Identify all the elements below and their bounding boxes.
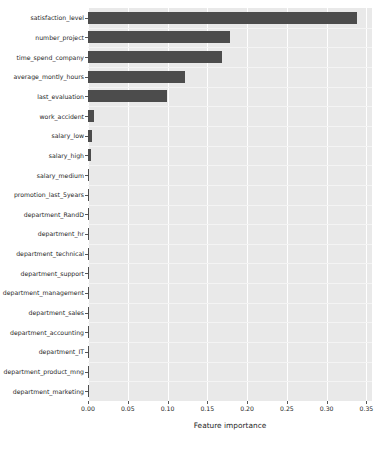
y-tick-label-promotion_last_5years: promotion_last_5years — [0, 191, 84, 198]
x-tick-label-0.20: 0.20 — [240, 404, 254, 413]
x-tick-label-0.30: 0.30 — [320, 404, 334, 413]
bar-department_product_mng — [88, 366, 89, 378]
bar-average_montly_hours — [88, 71, 185, 83]
bar-department_hr — [88, 228, 89, 240]
y-tick-label-salary_medium: salary_medium — [0, 172, 84, 179]
bar-time_spend_company — [88, 51, 222, 63]
bar-series — [88, 8, 372, 401]
y-tick-label-department_accounting: department_accounting — [0, 329, 84, 336]
x-axis-label: Feature importance — [88, 421, 372, 431]
y-tick-label-department_technical: department_technical — [0, 250, 84, 257]
x-tick-mark — [287, 401, 288, 404]
y-tick-mark — [85, 313, 88, 314]
y-tick-mark — [85, 293, 88, 294]
y-tick-label-department_management: department_management — [0, 289, 84, 296]
bar-department_accounting — [88, 326, 89, 338]
x-tick-label-0.35: 0.35 — [360, 404, 374, 413]
y-tick-mark — [85, 116, 88, 117]
y-tick-label-number_project: number_project — [0, 34, 84, 41]
x-tick-label-0.05: 0.05 — [121, 404, 135, 413]
y-tick-mark — [85, 195, 88, 196]
bar-department_IT — [88, 346, 89, 358]
bar-promotion_last_5years — [88, 189, 89, 201]
y-tick-mark — [85, 175, 88, 176]
bar-department_RandD — [88, 208, 89, 220]
bar-number_project — [88, 31, 230, 43]
y-axis-tick-labels: satisfaction_levelnumber_projecttime_spe… — [0, 8, 84, 401]
y-tick-label-department_hr: department_hr — [0, 230, 84, 237]
y-tick-mark — [85, 234, 88, 235]
bar-last_evaluation — [88, 90, 167, 102]
bar-satisfaction_level — [88, 12, 357, 24]
y-tick-label-department_RandD: department_RandD — [0, 211, 84, 218]
x-tick-mark — [366, 401, 367, 404]
y-tick-label-satisfaction_level: satisfaction_level — [0, 14, 84, 21]
x-axis-tick-labels: 0.000.050.100.150.200.250.300.35 — [88, 404, 372, 416]
bar-salary_low — [88, 130, 92, 142]
x-tick-label-0.15: 0.15 — [200, 404, 214, 413]
y-tick-label-work_accident: work_accident — [0, 113, 84, 120]
bar-department_marketing — [88, 385, 89, 397]
y-tick-label-time_spend_company: time_spend_company — [0, 54, 84, 61]
y-tick-mark — [85, 77, 88, 78]
x-tick-label-0.25: 0.25 — [280, 404, 294, 413]
bar-department_management — [88, 287, 89, 299]
y-tick-label-department_marketing: department_marketing — [0, 388, 84, 395]
plot-area — [88, 8, 372, 401]
y-tick-mark — [85, 214, 88, 215]
feature-importance-chart: satisfaction_levelnumber_projecttime_spe… — [0, 0, 381, 458]
x-tick-mark — [88, 401, 89, 404]
y-tick-label-salary_high: salary_high — [0, 152, 84, 159]
y-tick-mark — [85, 136, 88, 137]
x-tick-mark — [168, 401, 169, 404]
y-tick-label-department_sales: department_sales — [0, 309, 84, 316]
x-tick-mark — [128, 401, 129, 404]
x-tick-mark — [327, 401, 328, 404]
y-tick-label-salary_low: salary_low — [0, 132, 84, 139]
y-tick-label-department_IT: department_IT — [0, 348, 84, 355]
y-tick-mark — [85, 37, 88, 38]
bar-salary_medium — [88, 169, 89, 181]
y-tick-label-department_support: department_support — [0, 270, 84, 277]
y-tick-mark — [85, 273, 88, 274]
y-tick-mark — [85, 332, 88, 333]
y-tick-mark — [85, 352, 88, 353]
x-tick-label-0.10: 0.10 — [161, 404, 175, 413]
y-tick-mark — [85, 96, 88, 97]
bar-work_accident — [88, 110, 94, 122]
bar-department_support — [88, 267, 89, 279]
y-tick-label-average_montly_hours: average_montly_hours — [0, 73, 84, 80]
bar-department_sales — [88, 307, 89, 319]
y-tick-label-last_evaluation: last_evaluation — [0, 93, 84, 100]
y-tick-mark — [85, 155, 88, 156]
x-tick-label-0.00: 0.00 — [81, 404, 95, 413]
y-tick-mark — [85, 254, 88, 255]
x-tick-mark — [207, 401, 208, 404]
y-tick-mark — [85, 372, 88, 373]
bar-salary_high — [88, 149, 91, 161]
x-tick-mark — [247, 401, 248, 404]
y-tick-mark — [85, 391, 88, 392]
y-tick-mark — [85, 18, 88, 19]
y-tick-mark — [85, 57, 88, 58]
y-tick-label-department_product_mng: department_product_mng — [0, 368, 84, 375]
bar-department_technical — [88, 248, 89, 260]
